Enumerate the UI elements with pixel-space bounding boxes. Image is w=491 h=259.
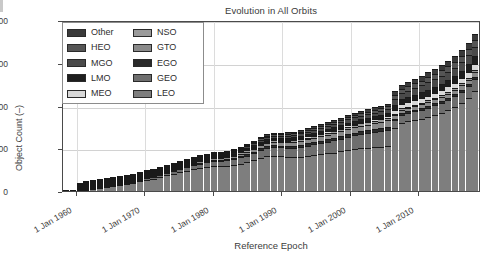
bar-segment-leo (466, 98, 472, 191)
legend-swatch-meo (67, 90, 86, 98)
x-tick-mark (281, 192, 282, 196)
bar-column (325, 122, 331, 191)
bar-column (412, 79, 418, 191)
x-tick-label: 1 Jan 2000 (306, 205, 347, 235)
bar-column (298, 130, 304, 191)
bar-column (466, 43, 472, 191)
bar-segment-mgo (439, 76, 445, 84)
bar-segment-geo (338, 139, 344, 152)
bar-segment-geo (251, 153, 257, 160)
legend-item-geo[interactable]: GEO (133, 72, 199, 85)
bar-segment-lmo (472, 56, 478, 64)
legend-item-mgo[interactable]: MGO (67, 57, 133, 70)
bar-segment-leo (419, 119, 425, 191)
bar-segment-geo (352, 135, 358, 149)
bar-segment-geo (305, 146, 311, 156)
bar-column (445, 61, 451, 191)
bar-column (392, 91, 398, 191)
bar-segment-leo (77, 190, 83, 191)
legend-swatch-nso (133, 29, 152, 37)
bar-column (171, 163, 177, 191)
bar-segment-geo (372, 132, 378, 147)
bar-segment-leo (459, 103, 465, 191)
bar-segment-leo (184, 171, 190, 191)
x-tick-label: 1 Jan 1990 (237, 205, 278, 235)
legend-item-leo[interactable]: LEO (133, 87, 199, 100)
bar-segment-leo (110, 186, 116, 191)
bar-segment-mgo (419, 85, 425, 92)
bar-segment-leo (97, 188, 103, 191)
bar-segment-leo (70, 190, 76, 191)
bar-segment-geo (331, 140, 337, 152)
bar-segment-geo (452, 96, 458, 107)
bar-column (264, 134, 270, 191)
bar-column (251, 141, 257, 191)
bar-segment-mgo (425, 82, 431, 89)
bar-column (419, 76, 425, 191)
chart-title: Evolution in All Orbits (62, 5, 480, 16)
bar-segment-leo (372, 147, 378, 191)
legend-item-other[interactable]: Other (67, 26, 133, 39)
corner-artifact (0, 0, 3, 12)
legend-item-meo[interactable]: MEO (67, 87, 133, 100)
x-tick-label: 1 Jan 1970 (100, 205, 141, 235)
y-tick-mark (58, 192, 62, 193)
bar-column (63, 190, 69, 191)
bar-segment-leo (171, 174, 177, 191)
legend-item-lmo[interactable]: LMO (67, 72, 133, 85)
bar-column (278, 133, 284, 191)
bar-column (70, 190, 76, 191)
chart-screenshot: Evolution in All Orbits 0500010000150002… (0, 0, 491, 259)
legend-item-ego[interactable]: EGO (133, 57, 199, 70)
x-tick-mark (144, 192, 145, 196)
bar-segment-leo (63, 190, 69, 191)
bar-segment-leo (291, 157, 297, 191)
bar-segment-leo (358, 148, 364, 191)
bar-segment-geo (264, 148, 270, 156)
legend-label: HEO (91, 43, 111, 52)
bar-segment-leo (238, 164, 244, 191)
bar-segment-geo (311, 144, 317, 155)
bar-segment-leo (164, 175, 170, 191)
bar-segment-leo (124, 184, 130, 191)
legend-item-heo[interactable]: HEO (67, 41, 133, 54)
bar-segment-leo (117, 185, 123, 191)
bar-segment-leo (231, 165, 237, 191)
legend-label: EGO (157, 59, 177, 68)
bar-column (137, 172, 143, 191)
x-tick-label: 1 Jan 1980 (169, 205, 210, 235)
legend-column-left: OtherHEOMGOLMOMEO (67, 26, 133, 100)
legend-swatch-leo (133, 90, 152, 98)
bar-segment-lmo (459, 71, 465, 78)
bar-segment-geo (459, 92, 465, 103)
bar-column (352, 113, 358, 191)
legend-item-gto[interactable]: GTO (133, 41, 199, 54)
bar-column (372, 107, 378, 191)
bar-segment-leo (278, 156, 284, 191)
legend-swatch-ego (133, 59, 152, 67)
bar-segment-leo (177, 172, 183, 191)
bar-segment-geo (244, 156, 250, 163)
bar-column (238, 147, 244, 192)
bar-segment-leo (439, 113, 445, 191)
bar-column (218, 152, 224, 191)
bar-segment-geo (432, 105, 438, 115)
bar-segment-leo (365, 148, 371, 191)
bar-segment-geo (385, 130, 391, 146)
bar-column (338, 118, 344, 191)
bar-column (399, 85, 405, 191)
bar-column (197, 155, 203, 191)
bar-segment-leo (204, 167, 210, 191)
bar-segment-leo (83, 190, 89, 191)
bar-segment-mgo (466, 55, 472, 64)
bar-segment-leo (305, 156, 311, 191)
x-tick-mark (418, 192, 419, 196)
bar-segment-leo (399, 123, 405, 191)
bar-segment-leo (251, 160, 257, 191)
bar-column (224, 151, 230, 191)
bar-column (244, 144, 250, 191)
bar-segment-geo (358, 134, 364, 148)
legend-item-nso[interactable]: NSO (133, 26, 199, 39)
bar-segment-geo (399, 115, 405, 123)
bar-segment-leo (325, 153, 331, 191)
